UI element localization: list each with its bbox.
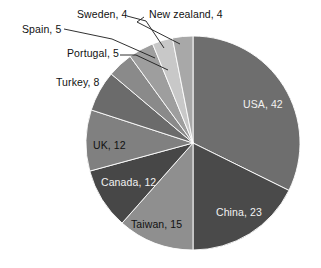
pie-label-new-zealand: New zealand, 4 [149,9,223,20]
pie-label-canada: Canada, 12 [101,177,156,188]
pie-label-spain: Spain, 5 [22,24,61,35]
pie-label-sweden: Sweden, 4 [77,9,128,20]
pie-label-uk: UK, 12 [93,140,126,151]
pie-label-taiwan: Taiwan, 15 [131,219,182,230]
pie-label-turkey: Turkey, 8 [56,77,100,88]
pie-chart: USA, 42China, 23Taiwan, 15Canada, 12UK, … [0,0,321,268]
pie-label-portugal: Portugal, 5 [67,48,119,59]
pie-label-china: China, 23 [216,207,262,218]
pie-label-usa: USA, 42 [243,99,283,110]
